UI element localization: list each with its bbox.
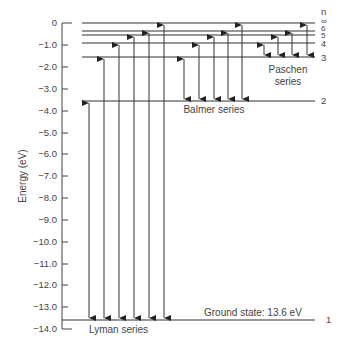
balmer-arrows [184,25,242,99]
energy-level-diagram: 0 −1.0 −2.0 −3.0 −4.0 −5.0 −6.0 −7.0 −8.… [0,0,350,350]
tick-label: −4.0 [38,105,57,116]
tick-label: −6.0 [38,148,57,159]
tick-label: −3.0 [38,83,57,94]
tick-label: −13.0 [33,301,57,312]
paschen-arrows [264,25,307,55]
tick-label: −14.0 [33,323,57,334]
lyman-label: Lyman series [89,324,148,335]
tick-label: −1.0 [38,39,57,50]
n1-label: 1 [326,314,331,325]
n3-label: 3 [321,52,326,63]
level-labels: n ∞ 6 5 4 3 2 1 [321,6,331,325]
paschen-label-line2: series [275,76,302,87]
tick-label: −2.0 [38,61,57,72]
y-axis-label: Energy (eV) [17,149,28,202]
tick-label: −8.0 [38,192,57,203]
n-header: n [321,6,326,17]
tick-label: −5.0 [38,127,57,138]
tick-label: −7.0 [38,170,57,181]
ground-state-label: Ground state: 13.6 eV [204,307,302,318]
tick-label: −10.0 [33,236,57,247]
y-ticks [62,45,68,307]
paschen-label-line1: Paschen [269,64,308,75]
y-tick-labels: 0 −1.0 −2.0 −3.0 −4.0 −5.0 −6.0 −7.0 −8.… [33,17,57,334]
tick-label: −9.0 [38,214,57,225]
tick-label: −12.0 [33,279,57,290]
lyman-arrows [89,25,164,318]
tick-label: −11.0 [34,258,57,269]
n2-label: 2 [321,95,326,106]
tick-label: 0 [52,17,57,28]
n4-label: 4 [321,39,326,49]
balmer-label: Balmer series [183,104,244,115]
